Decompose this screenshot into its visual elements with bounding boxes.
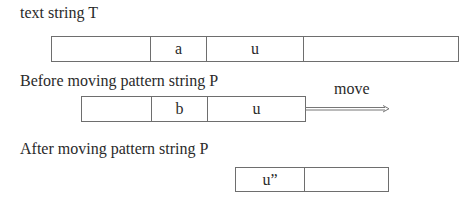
pattern-after-cell-u-double-prime: u” xyxy=(236,168,305,191)
after-label: After moving pattern string P xyxy=(20,140,208,158)
text-string-label: text string T xyxy=(20,4,98,22)
pattern-before-cell-u: u xyxy=(208,97,305,121)
pattern-before-cell-0 xyxy=(82,97,152,121)
text-cell-a: a xyxy=(151,37,207,61)
pattern-before-row: b u xyxy=(81,96,306,122)
move-arrow-icon xyxy=(305,104,391,114)
pattern-after-cell-1 xyxy=(305,168,388,191)
before-label: Before moving pattern string P xyxy=(20,72,218,90)
text-cell-3 xyxy=(304,37,458,61)
move-label: move xyxy=(334,80,370,98)
text-string-row: a u xyxy=(51,36,459,62)
pattern-before-cell-b: b xyxy=(152,97,208,121)
pattern-after-row: u” xyxy=(235,167,389,192)
text-cell-0 xyxy=(52,37,151,61)
text-cell-u: u xyxy=(207,37,304,61)
